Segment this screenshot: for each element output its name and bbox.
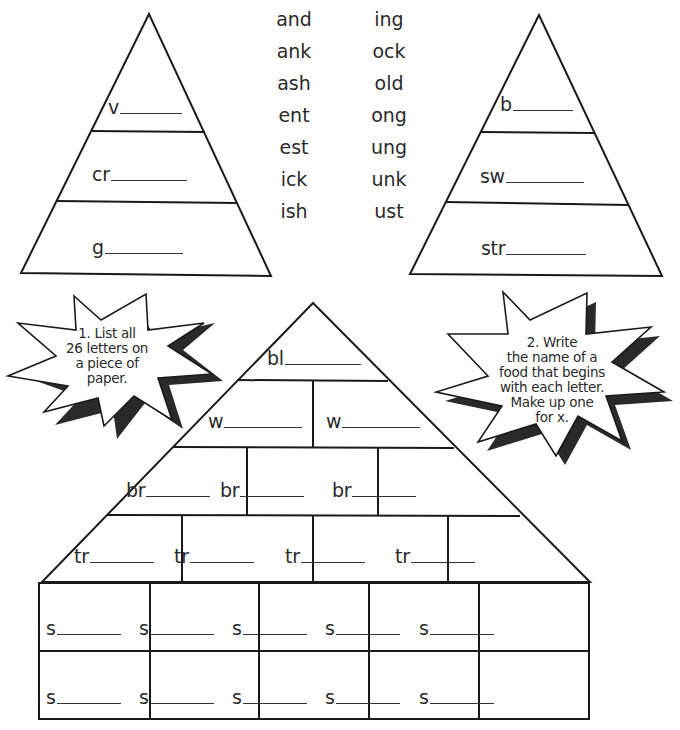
blank-line[interactable] xyxy=(336,702,400,704)
blank-line[interactable] xyxy=(105,252,183,254)
fill-in-blank[interactable]: tr xyxy=(285,545,365,567)
blank-line[interactable] xyxy=(513,109,573,111)
ending: ash xyxy=(259,72,329,94)
fill-in-blank[interactable]: br xyxy=(332,479,416,501)
fill-in-blank[interactable]: cr xyxy=(92,163,187,185)
left-triangle-divider-1 xyxy=(91,131,205,132)
blank-line[interactable] xyxy=(243,702,307,704)
ending: and xyxy=(259,8,329,30)
blank-line[interactable] xyxy=(150,633,214,635)
fill-in-blank[interactable]: s xyxy=(325,686,400,708)
ending: ank xyxy=(259,40,329,62)
right-triangle-divider-1 xyxy=(481,132,594,133)
ending: unk xyxy=(354,168,424,190)
fill-in-blank[interactable]: s xyxy=(46,686,121,708)
fill-in-blank[interactable]: w xyxy=(208,410,302,432)
ending: ung xyxy=(354,136,424,158)
blank-line[interactable] xyxy=(90,561,154,563)
ending: ock xyxy=(354,40,424,62)
blank-line[interactable] xyxy=(57,633,121,635)
fill-in-blank[interactable]: br xyxy=(126,479,210,501)
ending: ick xyxy=(259,168,329,190)
ending: ish xyxy=(259,200,329,222)
ending: ing xyxy=(354,8,424,30)
fill-in-blank[interactable]: s xyxy=(139,686,214,708)
fill-in-blank[interactable]: s xyxy=(325,617,400,639)
blank-line[interactable] xyxy=(150,702,214,704)
fill-in-blank[interactable]: tr xyxy=(74,545,154,567)
fill-in-blank[interactable]: s xyxy=(46,617,121,639)
blank-line[interactable] xyxy=(430,702,494,704)
blank-line[interactable] xyxy=(352,495,416,497)
blank-line[interactable] xyxy=(336,633,400,635)
ending: ust xyxy=(354,200,424,222)
fill-in-blank[interactable]: g xyxy=(92,236,183,258)
ending: old xyxy=(354,72,424,94)
fill-in-blank[interactable]: v xyxy=(108,96,182,118)
ending: ong xyxy=(354,104,424,126)
blank-line[interactable] xyxy=(430,633,494,635)
fill-in-blank[interactable]: b xyxy=(500,93,573,115)
blank-line[interactable] xyxy=(285,363,361,365)
blank-line[interactable] xyxy=(120,112,182,114)
fill-in-blank[interactable]: br xyxy=(220,479,304,501)
fill-in-blank[interactable]: str xyxy=(481,237,586,259)
fill-in-blank[interactable]: s xyxy=(139,617,214,639)
blank-line[interactable] xyxy=(224,426,302,428)
fill-in-blank[interactable]: sw xyxy=(480,165,584,187)
blank-line[interactable] xyxy=(111,179,187,181)
blank-line[interactable] xyxy=(57,702,121,704)
fill-in-blank[interactable]: w xyxy=(326,410,420,432)
blank-line[interactable] xyxy=(301,561,365,563)
fill-in-blank[interactable]: tr xyxy=(174,545,254,567)
fill-in-blank[interactable]: s xyxy=(232,686,307,708)
blank-line[interactable] xyxy=(411,561,475,563)
blank-line[interactable] xyxy=(190,561,254,563)
blank-line[interactable] xyxy=(146,495,210,497)
fill-in-blank[interactable]: s xyxy=(232,617,307,639)
blank-line[interactable] xyxy=(240,495,304,497)
blank-line[interactable] xyxy=(342,426,420,428)
fill-in-blank[interactable]: tr xyxy=(395,545,475,567)
fill-in-blank[interactable]: bl xyxy=(267,347,361,369)
fill-in-blank[interactable]: s xyxy=(419,686,494,708)
fill-in-blank[interactable]: s xyxy=(419,617,494,639)
blank-line[interactable] xyxy=(506,181,584,183)
ending: est xyxy=(259,136,329,158)
blank-line[interactable] xyxy=(243,633,307,635)
instruction-step1: 1. List all 26 letters on a piece of pap… xyxy=(52,326,162,386)
ending: ent xyxy=(259,104,329,126)
blank-line[interactable] xyxy=(506,253,586,255)
instruction-step2: 2. Write the name of a food that begins … xyxy=(487,335,617,425)
